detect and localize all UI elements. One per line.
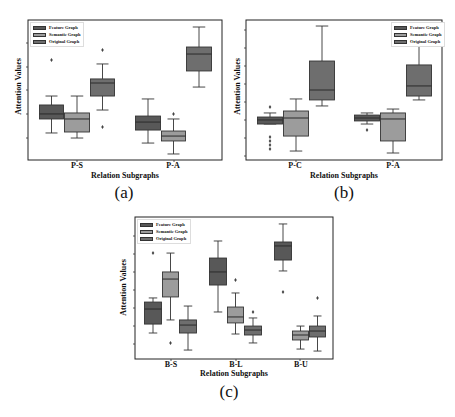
chart-panel-c: Attention Values B-S B-L B-U Relation Su… (0, 0, 455, 417)
legend-swatch-original (140, 237, 153, 241)
x-tick-label-c-0: B-S (156, 360, 186, 369)
box-iqr (180, 320, 197, 333)
legend-c: Feature Graph Semantic Graph Original Gr… (137, 219, 191, 244)
y-axis-label-c: Attention Values (119, 238, 128, 338)
caption-c: (c) (209, 382, 249, 402)
legend-item-feature-graph: Feature Graph (140, 221, 188, 228)
boxplot-c (0, 0, 455, 417)
box-iqr (145, 302, 162, 324)
legend-swatch-feature (140, 223, 153, 227)
legend-swatch-semantic (140, 230, 153, 234)
legend-item-semantic-graph: Semantic Graph (140, 228, 188, 235)
x-tick-label-c-2: B-U (286, 360, 316, 369)
box-iqr (275, 242, 292, 260)
box-iqr (228, 307, 244, 323)
x-axis-label-c: Relation Subgraphs (184, 369, 284, 378)
legend-item-original-graph: Original Graph (140, 235, 188, 242)
x-tick-label-c-1: B-L (221, 360, 251, 369)
box-iqr (163, 272, 179, 297)
